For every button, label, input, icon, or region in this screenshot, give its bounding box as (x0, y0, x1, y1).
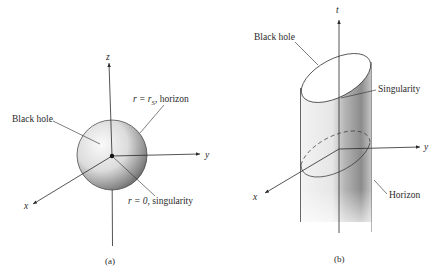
x-axis-label-b: x (253, 193, 257, 203)
singularity-label-b: Singularity (378, 85, 420, 95)
horizon-label: r = rS, horizon (133, 95, 189, 107)
y-axis-label-b: y (424, 143, 428, 153)
figure-b (265, 20, 420, 233)
leader-horizon (140, 105, 164, 133)
black-hole-label-b: Black hole (254, 33, 295, 43)
leader-horizon-b (374, 180, 387, 194)
caption-a: (a) (105, 257, 115, 266)
leader-black-hole-b (295, 42, 318, 65)
horizon-label-b: Horizon (389, 191, 420, 201)
caption-b: (b) (334, 255, 345, 264)
x-axis-label: x (24, 202, 28, 212)
singularity-label: r = 0, singularity (128, 197, 193, 207)
figure-a (33, 63, 200, 246)
diagram-canvas (0, 0, 447, 280)
y-axis-label: y (205, 151, 209, 161)
t-axis-label: t (336, 6, 339, 16)
black-hole-label: Black hole (12, 115, 53, 125)
z-axis-label: z (106, 53, 110, 63)
